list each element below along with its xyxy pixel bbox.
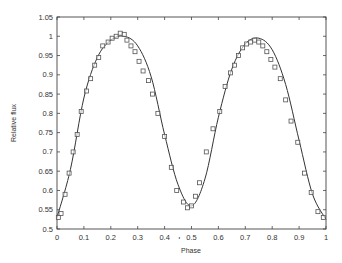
- data-point-marker: [75, 133, 79, 137]
- data-point-marker: [211, 127, 215, 131]
- data-point-marker: [150, 92, 154, 96]
- data-point-marker: [296, 140, 300, 144]
- x-tick-label: 0.4: [159, 233, 169, 242]
- data-point-marker: [137, 59, 141, 63]
- data-point-marker: [85, 89, 89, 93]
- data-point-marker: [265, 50, 269, 54]
- x-tick-label: 0.8: [267, 233, 277, 242]
- y-axis-label: Relative flux: [10, 103, 17, 142]
- data-point-marker: [278, 77, 282, 81]
- data-point-marker: [229, 71, 233, 75]
- y-tick-label: 0.6: [43, 186, 53, 195]
- data-point-marker: [194, 194, 198, 198]
- data-point-marker: [122, 32, 126, 36]
- data-point-marker: [316, 210, 320, 214]
- data-point-marker: [273, 65, 277, 69]
- x-tick-label: 0.7: [240, 233, 250, 242]
- data-point-marker: [245, 42, 249, 46]
- data-point-marker: [129, 44, 133, 48]
- data-point-marker: [101, 44, 105, 48]
- y-tick-label: 0.8: [43, 109, 53, 118]
- data-point-marker: [218, 109, 222, 113]
- data-point-marker: [146, 79, 150, 83]
- data-point-marker: [71, 150, 75, 154]
- x-tick-label: 0.6: [213, 233, 223, 242]
- data-point-marker: [93, 63, 97, 67]
- x-tick-label: 0.5: [186, 233, 196, 242]
- y-tick-label: 0.7: [43, 147, 53, 156]
- data-point-marker: [249, 40, 253, 44]
- data-point-marker: [257, 40, 261, 44]
- y-tick-label: 0.65: [38, 167, 53, 176]
- y-tick-label: 0.95: [38, 51, 53, 60]
- data-point-marker: [156, 111, 160, 115]
- data-point-marker: [175, 188, 179, 192]
- data-point-marker: [253, 38, 257, 42]
- model-curve: [57, 36, 326, 219]
- x-tick-label: 0.1: [79, 233, 89, 242]
- x-tick-label: 0.3: [132, 233, 142, 242]
- data-point-marker: [289, 119, 293, 123]
- x-tick-label: 0: [55, 233, 59, 242]
- data-point-marker: [110, 36, 114, 40]
- data-point-marker: [185, 206, 189, 210]
- data-point-marker: [233, 63, 237, 67]
- data-point-marker: [237, 54, 241, 58]
- data-point-marker: [67, 171, 71, 175]
- data-point-marker: [269, 57, 273, 61]
- data-point-marker: [89, 77, 93, 81]
- data-point-marker: [141, 69, 145, 73]
- light-curve-chart: 00.10.20.30.40.50.60.70.80.91 0.50.550.6…: [0, 0, 342, 263]
- data-point-marker: [163, 134, 167, 138]
- data-point-marker: [79, 109, 83, 113]
- data-point-marker: [302, 171, 306, 175]
- data-point-marker: [118, 31, 122, 35]
- y-tick-label: 0.55: [38, 205, 53, 214]
- data-point-marker: [321, 215, 325, 219]
- data-point-marker: [204, 150, 208, 154]
- data-point-marker: [133, 50, 137, 54]
- y-tick-label: 1.05: [38, 13, 53, 22]
- x-axis-label: Phase: [181, 247, 201, 254]
- y-tick-label: 0.9: [43, 70, 53, 79]
- observed-data-markers: [56, 31, 325, 219]
- data-point-marker: [169, 165, 173, 169]
- plot-frame: [57, 17, 326, 229]
- data-point-marker: [97, 55, 101, 59]
- x-tick-label: 0.2: [106, 233, 116, 242]
- y-tick-label: 0.5: [43, 225, 53, 234]
- data-point-marker: [106, 40, 110, 44]
- x-tick-label: 0.9: [294, 233, 304, 242]
- data-point-marker: [261, 44, 265, 48]
- data-point-marker: [59, 212, 63, 216]
- x-tick-label: 1: [324, 233, 328, 242]
- data-point-marker: [63, 192, 67, 196]
- data-point-marker: [223, 84, 227, 88]
- data-point-marker: [241, 46, 245, 50]
- data-point-marker: [309, 190, 313, 194]
- data-point-marker: [284, 98, 288, 102]
- y-tick-label: 0.75: [38, 128, 53, 137]
- data-point-marker: [125, 38, 129, 42]
- y-tick-label: 1: [49, 32, 53, 41]
- data-point-marker: [181, 200, 185, 204]
- data-point-marker: [56, 215, 60, 219]
- y-tick-label: 0.85: [38, 90, 53, 99]
- data-point-marker: [198, 181, 202, 185]
- data-point-marker: [114, 34, 118, 38]
- data-point-marker: [190, 204, 194, 208]
